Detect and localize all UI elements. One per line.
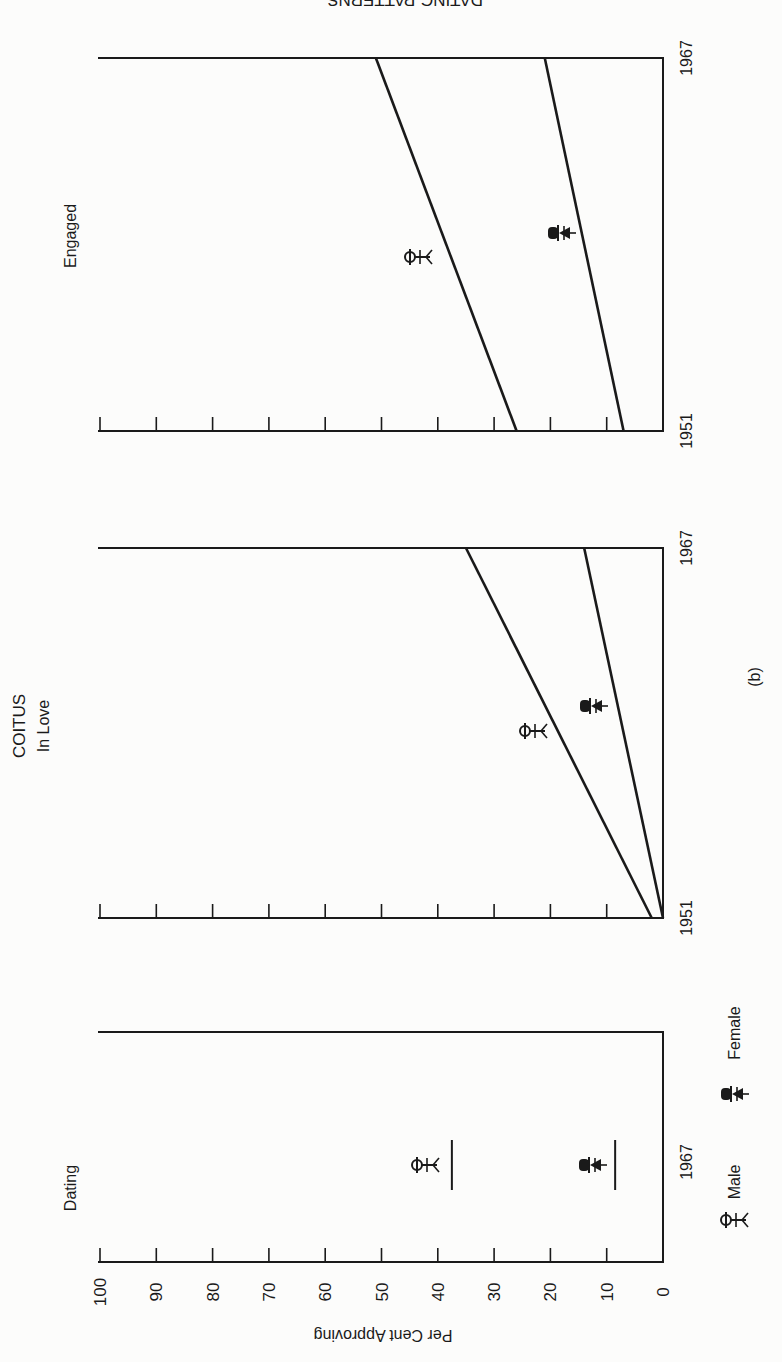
- female-trend-line: [545, 58, 624, 431]
- panel-title-in-love: In Love: [35, 700, 52, 753]
- panel-title-engaged: Engaged: [62, 204, 79, 268]
- axis-tick-label: 50: [373, 1283, 392, 1302]
- female-figure-icon: [579, 1157, 607, 1173]
- female-figure-icon: [721, 1086, 749, 1102]
- legend-female-label: Female: [726, 1006, 743, 1059]
- axis-tick-label: 80: [204, 1283, 223, 1302]
- figure-label: (b): [746, 667, 763, 687]
- year-label-1951: 1951: [678, 900, 695, 936]
- male-figure-icon: [520, 723, 547, 739]
- female-figure-icon: [580, 698, 608, 714]
- legend: Male Female: [721, 1006, 749, 1228]
- panel-frame: [98, 1032, 663, 1262]
- male-figure-icon: [721, 1212, 748, 1228]
- rotated-chart: DATING PATTERNS Engaged 1967 1951: [0, 0, 782, 1362]
- chart-title: COITUS: [10, 694, 29, 758]
- male-figure-icon: [405, 249, 432, 265]
- panel-in-love: COITUS In Love 1967 1951 (b): [10, 530, 763, 936]
- axis-tick-label: 70: [260, 1283, 279, 1302]
- axis-label: Per Cent Approving: [314, 1327, 453, 1344]
- panel-frame: [98, 548, 663, 918]
- tick-marks: [100, 417, 607, 431]
- female-figure-icon: [548, 225, 576, 241]
- axis-tick-label: 60: [316, 1283, 335, 1302]
- year-label-1967: 1967: [678, 530, 695, 566]
- year-label-1967: 1967: [678, 1144, 695, 1180]
- panel-title-dating: Dating: [62, 1165, 79, 1211]
- axis-tick-label: 20: [541, 1283, 560, 1302]
- year-label-1951: 1951: [678, 413, 695, 449]
- axis-tick-label: 0: [654, 1287, 673, 1296]
- axis-tick-label: 10: [598, 1283, 617, 1302]
- axis-tick-label: 30: [485, 1283, 504, 1302]
- panel-engaged: Engaged 1967 1951: [62, 40, 695, 449]
- percent-axis: 1009080706050403020100: [91, 1278, 673, 1306]
- axis-tick-label: 90: [147, 1283, 166, 1302]
- running-header: DATING PATTERNS: [327, 0, 483, 9]
- axis-tick-label: 40: [429, 1283, 448, 1302]
- legend-male-label: Male: [726, 1165, 743, 1200]
- axis-tick-label: 100: [91, 1278, 110, 1306]
- panel-frame: [98, 58, 663, 431]
- male-trend-line: [376, 58, 517, 431]
- year-label-1967: 1967: [678, 40, 695, 76]
- tick-marks: [100, 904, 607, 918]
- tick-marks: [100, 1248, 607, 1262]
- male-figure-icon: [412, 1157, 439, 1173]
- panel-dating: Dating 1967: [62, 1032, 695, 1262]
